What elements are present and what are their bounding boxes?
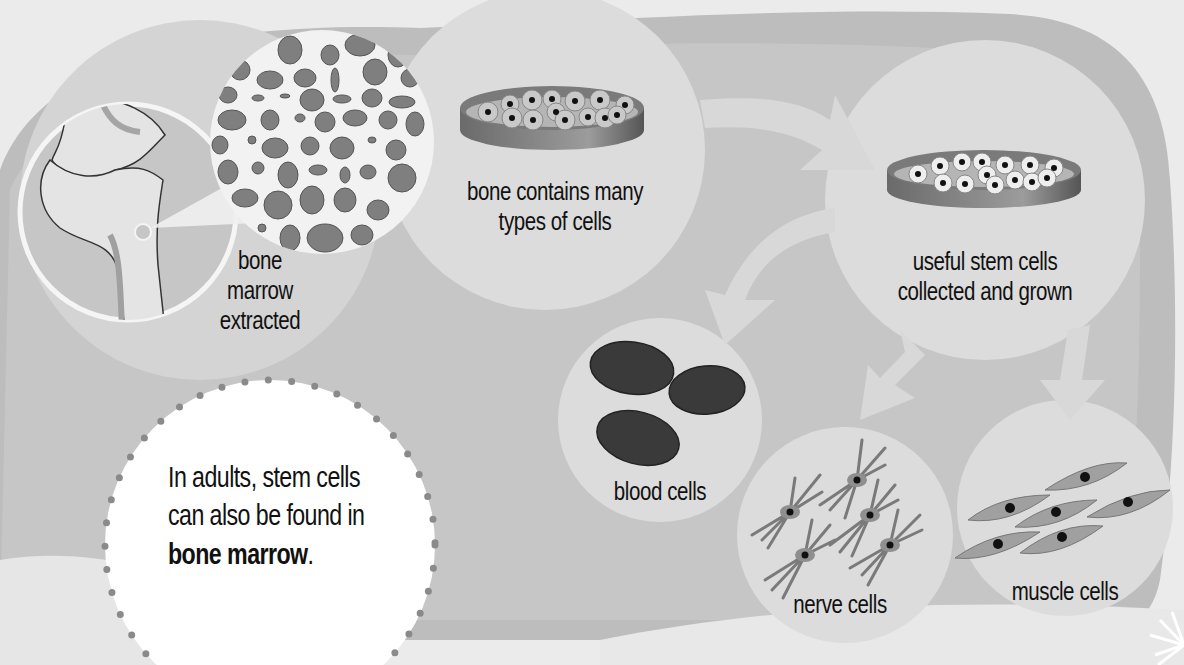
extract-label-line-2: marrow	[207, 275, 314, 305]
muscle-label: muscle cells	[991, 576, 1139, 606]
petri-dish-stem-cells	[887, 150, 1081, 208]
extract-label-line-3: extracted	[207, 305, 314, 335]
callout-bold-term: bone marrow	[168, 538, 308, 570]
extract-label: bone marrow extracted	[207, 245, 314, 335]
contains-label-line-2: types of cells	[453, 206, 658, 236]
contains-label-line-1: bone contains many	[453, 176, 658, 206]
callout-text: In adults, stem cells can also be found …	[168, 458, 408, 573]
nerve-label: nerve cells	[774, 589, 905, 619]
grown-label-line-1: useful stem cells	[883, 246, 1088, 276]
petri-dish-mixed-cells	[460, 86, 644, 150]
callout-line-2: can also be found in	[168, 496, 408, 534]
stem-cell-diagram: bone marrow extracted bone contains many…	[0, 0, 1184, 665]
callout-suffix: .	[308, 538, 314, 570]
callout-line-1: In adults, stem cells	[168, 458, 408, 496]
extract-label-line-1: bone	[207, 245, 314, 275]
grown-label-line-2: collected and grown	[883, 276, 1088, 306]
contains-label: bone contains many types of cells	[453, 176, 658, 236]
callout-line-3: bone marrow.	[168, 535, 408, 573]
grown-label: useful stem cells collected and grown	[883, 246, 1088, 306]
blood-label: blood cells	[594, 476, 725, 506]
